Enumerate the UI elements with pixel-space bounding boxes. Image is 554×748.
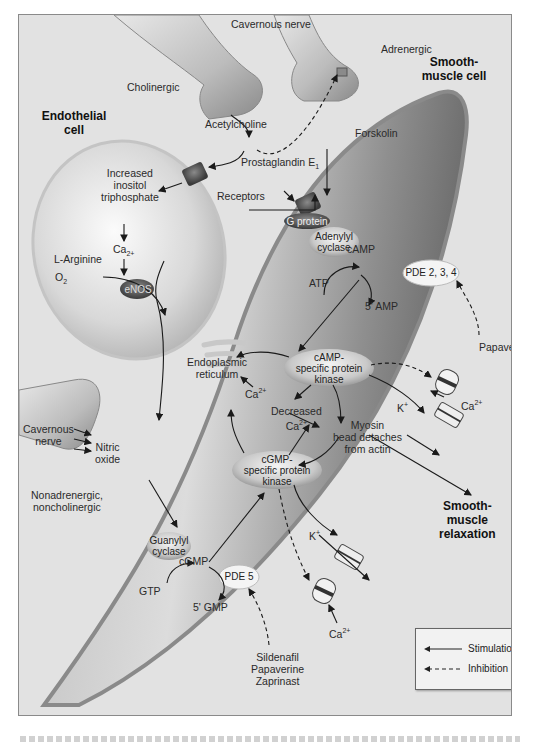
label-cgmp: cGMP [179, 555, 208, 567]
label-ca-endothelial: Ca2+ [113, 243, 134, 260]
label-receptors: Receptors [217, 190, 265, 202]
label-nitric-oxide: Nitricoxide [95, 441, 120, 465]
label-enos: eNOS [121, 284, 155, 295]
label-k-bottom: K+ [309, 527, 320, 542]
label-k-top: K+ [397, 399, 408, 414]
label-cavernous-nerve-left: Cavernousnerve [23, 423, 74, 447]
label-cgmp-kinase: cGMP-specific proteinkinase [233, 454, 321, 487]
label-myosin: Myosinhead detachesfrom actin [333, 419, 402, 455]
label-forskolin: Forskolin [355, 127, 398, 139]
legend-stimulation: Stimulation [424, 643, 512, 654]
label-atp: ATP [309, 277, 329, 289]
label-pde234: PDE 2, 3, 4 [403, 267, 459, 278]
label-cholinergic: Cholinergic [127, 81, 180, 93]
label-pde5: PDE 5 [219, 571, 259, 582]
label-cavernous-nerve-top: Cavernous nerve [231, 18, 311, 30]
label-ca-er: Ca2+ [245, 385, 266, 400]
label-increased-ip3: Increasedinositoltriphosphate [101, 167, 159, 203]
label-nanc: Nonadrenergic,noncholinergic [31, 489, 103, 513]
label-ca-channel-bottom: Ca2+ [329, 625, 350, 640]
label-adrenergic: Adrenergic [381, 43, 432, 55]
legend-inhibition-label: Inhibition [468, 663, 508, 674]
k-channel-bottom [334, 544, 365, 571]
truncated-caption-line [20, 736, 520, 742]
label-l-arginine: L-Arginine [54, 253, 102, 265]
label-gtp: GTP [139, 585, 161, 597]
legend-stimulation-label: Stimulation [468, 643, 512, 654]
label-camp-kinase: cAMP-specific proteinkinase [285, 352, 373, 385]
label-guanylyl-cyclase: Guanylylcyclase [147, 535, 191, 557]
label-pde5-inhibitors: SildenafilPapaverineZaprinast [251, 651, 304, 687]
adrenergic-receptor [337, 68, 347, 76]
label-endoplasmic-reticulum: Endoplasmicreticulum [187, 356, 247, 380]
label-camp: cAMP [347, 243, 375, 255]
label-smooth-muscle-cell: Smooth-muscle cell [419, 55, 489, 83]
legend-box: Stimulation Inhibition [415, 628, 512, 690]
label-acetylcholine: Acetylcholine [205, 118, 267, 130]
cavernous-nerve-cholinergic [114, 15, 262, 119]
legend-inhibition: Inhibition [424, 663, 508, 674]
label-smooth-muscle-relaxation: Smooth-musclerelaxation [439, 499, 496, 541]
solid-arrow-icon [424, 645, 462, 653]
label-prostaglandin: Prostaglandin E1 [241, 156, 319, 173]
k-channel-top [434, 402, 465, 429]
label-g-protein: G protein [285, 216, 329, 227]
label-ca-channel-top: Ca2+ [461, 397, 482, 412]
label-5-gmp: 5' GMP [193, 601, 228, 613]
label-5-amp: 5' AMP [365, 300, 398, 312]
label-papaverine: Papaverine [479, 341, 512, 353]
ca-channel-bottom [310, 576, 338, 606]
label-decreased-ca: DecreasedCa2+ [271, 405, 322, 432]
ca-channel-top [433, 367, 461, 397]
label-endothelial-cell: Endothelial cell [39, 109, 109, 137]
diagram-frame: Cavernous nerve Cholinergic Adrenergic S… [18, 14, 512, 716]
label-o2: O2 [55, 271, 67, 288]
dashed-arrow-icon [424, 665, 462, 673]
